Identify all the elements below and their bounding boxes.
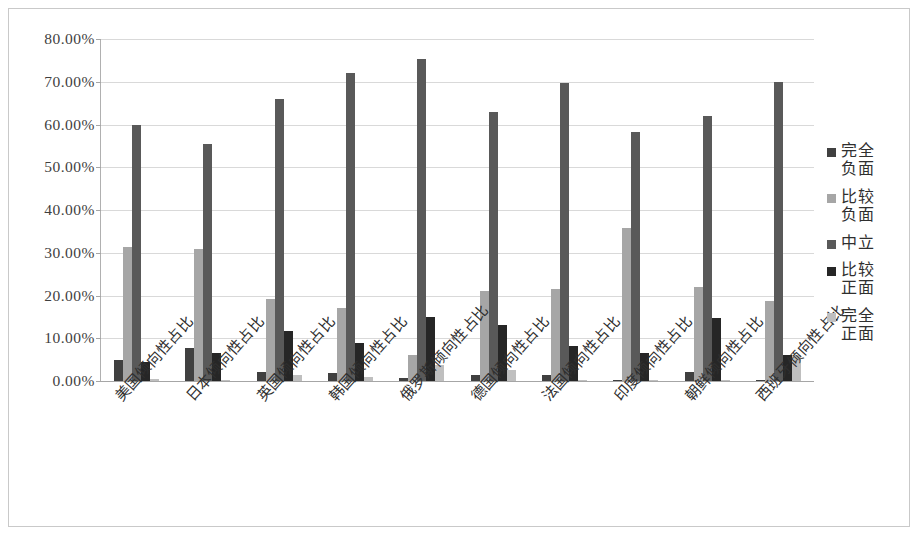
value-axis-tick-mark xyxy=(96,125,101,126)
chart-container: 0.00%10.00%20.00%30.00%40.00%50.00%60.00… xyxy=(8,8,910,527)
legend-swatch-icon xyxy=(827,240,836,249)
legend-item[interactable]: 比较负面 xyxy=(827,188,911,225)
bar xyxy=(622,228,631,381)
bar xyxy=(721,380,730,381)
bar xyxy=(194,249,203,381)
bar xyxy=(150,379,159,381)
legend-swatch-icon xyxy=(827,313,836,322)
value-axis-tick-mark xyxy=(96,39,101,40)
value-axis-tick-mark xyxy=(96,338,101,339)
bar xyxy=(221,380,230,381)
bar xyxy=(293,375,302,381)
legend-item[interactable]: 中立 xyxy=(827,234,911,252)
value-axis-tick-mark xyxy=(96,296,101,297)
value-axis-tick-mark xyxy=(96,210,101,211)
legend-item[interactable]: 完全正面 xyxy=(827,307,911,344)
bar xyxy=(489,112,498,381)
bar xyxy=(649,380,658,381)
value-axis-tick-label: 10.00% xyxy=(9,329,95,347)
bar xyxy=(417,59,426,381)
value-axis-labels: 0.00%10.00%20.00%30.00%40.00%50.00%60.00… xyxy=(9,39,95,381)
legend-label: 比较正面 xyxy=(841,261,883,298)
bar xyxy=(578,380,587,381)
value-axis-tick-mark xyxy=(96,253,101,254)
legend-label: 完全负面 xyxy=(841,142,883,179)
bar-group xyxy=(101,39,172,381)
value-axis-tick-label: 70.00% xyxy=(9,73,95,91)
legend-swatch-icon xyxy=(827,267,836,276)
value-axis-tick-label: 30.00% xyxy=(9,244,95,262)
value-axis-tick-label: 40.00% xyxy=(9,201,95,219)
legend-label: 完全正面 xyxy=(841,307,883,344)
bar xyxy=(123,247,132,381)
legend-item[interactable]: 完全负面 xyxy=(827,142,911,179)
bar xyxy=(203,144,212,381)
value-axis-tick-label: 80.00% xyxy=(9,30,95,48)
bar xyxy=(275,99,284,381)
bar xyxy=(631,132,640,381)
legend-item[interactable]: 比较正面 xyxy=(827,261,911,298)
legend-swatch-icon xyxy=(827,148,836,157)
bar xyxy=(132,125,141,381)
legend-label: 中立 xyxy=(841,234,883,252)
bar xyxy=(774,82,783,381)
value-axis-tick-label: 60.00% xyxy=(9,116,95,134)
chart-legend: 完全负面比较负面中立比较正面完全正面 xyxy=(827,142,911,353)
bar xyxy=(703,116,712,381)
value-axis-tick-mark xyxy=(96,167,101,168)
legend-swatch-icon xyxy=(827,194,836,203)
value-axis-tick-label: 0.00% xyxy=(9,372,95,390)
bar xyxy=(346,73,355,381)
bar xyxy=(364,377,373,381)
value-axis-tick-mark xyxy=(96,381,101,382)
value-axis-tick-mark xyxy=(96,82,101,83)
value-axis-tick-label: 50.00% xyxy=(9,158,95,176)
value-axis-tick-label: 20.00% xyxy=(9,287,95,305)
bar xyxy=(560,83,569,381)
legend-label: 比较负面 xyxy=(841,188,883,225)
